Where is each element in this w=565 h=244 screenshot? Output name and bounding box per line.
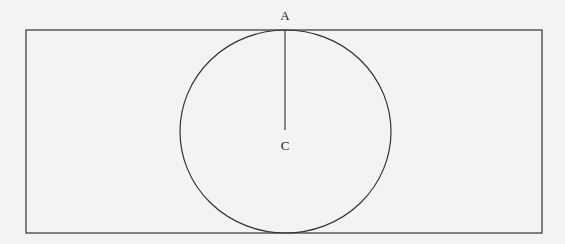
- geometry-diagram: A C: [0, 0, 565, 244]
- outer-rectangle: [26, 30, 542, 233]
- point-label-a: A: [280, 8, 290, 23]
- point-label-c: C: [281, 138, 290, 153]
